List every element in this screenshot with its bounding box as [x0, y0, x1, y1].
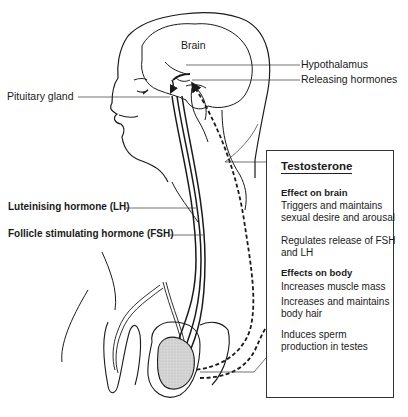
lh-label: Luteinising hormone (LH) — [8, 201, 130, 213]
testosterone-box: Testosterone Effect on brain Triggers an… — [266, 150, 394, 398]
effects-on-body-heading: Effects on body — [281, 267, 352, 278]
brain-label: Brain — [181, 39, 206, 51]
brain-effect-item: Triggers and maintains sexual desire and… — [281, 200, 396, 223]
testosterone-title: Testosterone — [281, 160, 352, 174]
fsh-label: Follicle stimulating hormone (FSH) — [8, 228, 174, 240]
releasing-hormones-label: Releasing hormones — [301, 73, 397, 85]
brain-effect-item: Regulates release of FSH and LH — [281, 235, 396, 258]
hypothalamus-label: Hypothalamus — [301, 58, 368, 70]
effect-on-brain-heading: Effect on brain — [281, 187, 348, 198]
body-effect-item: Increases and maintains body hair — [281, 296, 396, 319]
penis-outline — [104, 322, 141, 393]
pituitary-gland-label: Pituitary gland — [7, 90, 74, 102]
body-effect-item: Increases muscle mass — [281, 281, 396, 293]
testis — [148, 322, 229, 397]
body-effect-item: Induces sperm production in testes — [281, 329, 396, 352]
